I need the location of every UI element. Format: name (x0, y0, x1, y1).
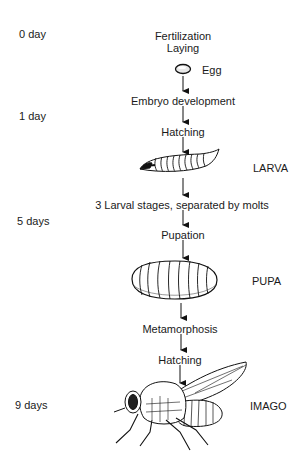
timeline-label-day-1: 1 day (19, 110, 46, 122)
stage-label-larva: LARVA (253, 162, 288, 174)
step-embryo-development: Embryo development (131, 95, 235, 107)
stage-label-pupa: PUPA (252, 275, 281, 287)
timeline-label-day-0: 0 day (19, 28, 46, 40)
step-larval-stages: 3 Larval stages, separated by molts (95, 199, 269, 211)
egg-icon (176, 65, 191, 74)
stage-label-imago: IMAGO (250, 400, 287, 412)
pupa-icon (132, 261, 217, 299)
step-fertilization: Fertilization (155, 30, 211, 42)
step-pupation: Pupation (161, 229, 204, 241)
timeline-label-day-5: 5 days (17, 215, 49, 227)
step-laying: Laying (167, 42, 199, 54)
step-metamorphosis: Metamorphosis (142, 323, 217, 335)
stage-label-egg: Egg (202, 64, 222, 76)
timeline-label-day-9: 9 days (15, 399, 47, 411)
step-hatching-imago: Hatching (158, 354, 201, 366)
step-hatching-larva: Hatching (161, 126, 204, 138)
larva-icon (140, 149, 219, 172)
